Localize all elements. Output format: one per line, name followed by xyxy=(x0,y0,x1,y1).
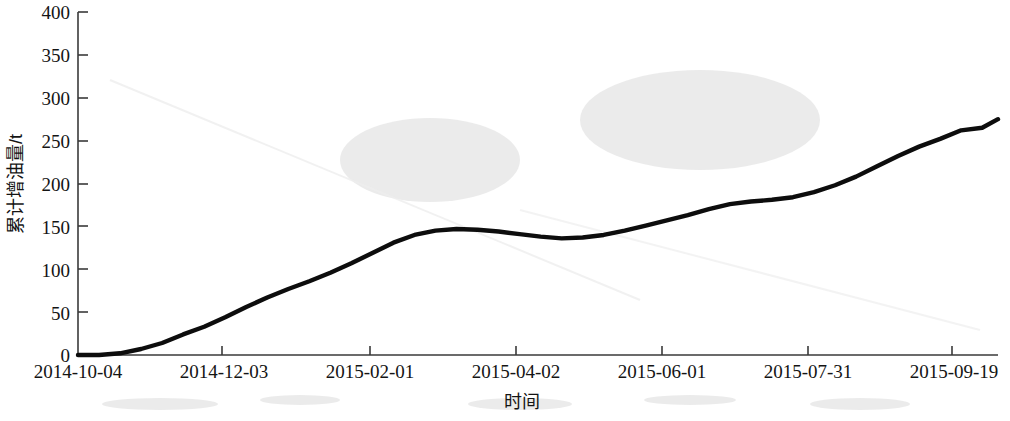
y-tick-labels: 400 350 300 250 200 150 100 50 0 xyxy=(42,2,71,366)
y-tick-label: 250 xyxy=(42,131,71,152)
y-tick-label: 400 xyxy=(42,2,71,23)
x-tick-label: 2014-12-03 xyxy=(180,361,269,382)
chart-container: 累计增油量/t 400 350 300 250 200 150 100 50 0 xyxy=(0,0,1010,421)
x-ticks xyxy=(222,346,952,355)
data-series-line xyxy=(78,119,998,355)
x-tick-label: 2015-06-01 xyxy=(618,361,707,382)
y-tick-label: 100 xyxy=(42,260,71,281)
line-chart: 累计增油量/t 400 350 300 250 200 150 100 50 0 xyxy=(0,0,1010,421)
x-tick-labels: 2014-10-04 2014-12-03 2015-02-01 2015-04… xyxy=(34,361,999,382)
x-tick-label: 2015-02-01 xyxy=(326,361,415,382)
y-ticks xyxy=(78,12,88,355)
y-tick-label: 150 xyxy=(42,217,71,238)
y-tick-label: 50 xyxy=(51,303,70,324)
y-tick-label: 350 xyxy=(42,45,71,66)
scan-artifacts xyxy=(102,70,980,410)
x-tick-label: 2015-04-02 xyxy=(472,361,561,382)
y-tick-label: 300 xyxy=(42,88,71,109)
x-tick-label: 2015-07-31 xyxy=(764,361,853,382)
y-tick-label: 200 xyxy=(42,174,71,195)
x-tick-label: 2014-10-04 xyxy=(34,361,123,382)
x-axis-label: 时间 xyxy=(504,392,540,412)
y-axis-label: 累计增油量/t xyxy=(6,134,26,234)
x-tick-label: 2015-09-19 xyxy=(910,361,999,382)
